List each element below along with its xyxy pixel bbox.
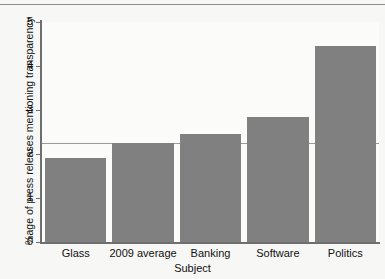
bar	[247, 117, 308, 242]
bar	[315, 46, 376, 242]
y-tick-mark	[36, 66, 41, 67]
chart-screenshot: 012345 Glass2009 averageBankingSoftwareP…	[0, 0, 385, 279]
bar	[112, 143, 173, 242]
x-tick-label: 2009 average	[109, 247, 176, 259]
page-top-rule	[0, 4, 385, 5]
x-tick-label: Glass	[42, 247, 109, 259]
y-axis-title: %age of press releases mentioning transp…	[23, 6, 35, 256]
y-tick-mark	[36, 110, 41, 111]
bar	[45, 158, 106, 242]
x-axis-line	[40, 242, 380, 244]
y-tick-mark	[36, 22, 41, 23]
y-tick-mark	[36, 154, 41, 155]
y-tick-mark	[36, 198, 41, 199]
x-axis-title: Subject	[0, 262, 385, 274]
bar-series	[42, 22, 379, 242]
y-tick-mark	[36, 242, 41, 243]
x-tick-label: Politics	[312, 247, 379, 259]
y-axis-line	[40, 20, 42, 244]
x-tick-label: Software	[244, 247, 311, 259]
x-tick-label: Banking	[177, 247, 244, 259]
bar	[180, 134, 241, 242]
